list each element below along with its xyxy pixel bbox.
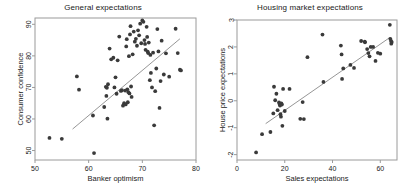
y-tick-label: 70 xyxy=(26,83,33,91)
data-point xyxy=(388,23,392,27)
data-point xyxy=(321,33,325,37)
data-point xyxy=(102,105,106,109)
y-tick-label: 1 xyxy=(228,72,235,76)
data-point xyxy=(48,136,52,140)
data-point xyxy=(155,27,159,31)
data-point xyxy=(131,52,135,56)
data-point xyxy=(378,52,382,56)
data-point xyxy=(154,67,158,71)
data-point xyxy=(108,47,112,51)
data-point xyxy=(260,132,264,136)
x-tick-label: 40 xyxy=(329,165,337,172)
data-point xyxy=(116,58,120,62)
y-axis-title-right: House price expectations xyxy=(218,20,227,160)
data-point xyxy=(127,54,131,58)
data-point xyxy=(349,63,353,67)
data-point xyxy=(339,44,343,48)
data-point xyxy=(157,50,161,54)
scatter-plot-left: 506070805060708090 xyxy=(0,0,206,190)
data-point xyxy=(148,78,152,82)
scatter-points xyxy=(48,19,183,155)
x-axis-title-left: Banker optimism xyxy=(35,174,196,183)
data-point xyxy=(280,103,284,107)
data-point xyxy=(150,86,154,90)
y-tick-label: 2 xyxy=(228,45,235,49)
data-point xyxy=(126,100,130,104)
data-point xyxy=(139,41,143,45)
data-point xyxy=(143,42,147,46)
data-point xyxy=(147,41,151,45)
x-tick-label: 60 xyxy=(85,165,93,172)
data-point xyxy=(106,117,110,121)
data-point xyxy=(352,66,356,70)
data-point xyxy=(162,73,166,77)
data-point xyxy=(275,92,279,96)
chart-panel-general-expectations: General expectations 506070805060708090 … xyxy=(0,0,206,190)
scatter-points xyxy=(254,23,393,154)
data-point xyxy=(273,98,277,102)
data-point xyxy=(179,68,183,72)
data-point xyxy=(129,24,133,28)
x-tick-label: 70 xyxy=(138,165,146,172)
data-point xyxy=(374,59,378,63)
data-point xyxy=(117,35,121,39)
data-point xyxy=(340,77,344,81)
x-tick-label: 80 xyxy=(192,165,200,172)
data-point xyxy=(145,25,149,29)
y-tick-label: -1 xyxy=(228,124,235,130)
data-point xyxy=(138,22,142,26)
data-point xyxy=(132,30,136,34)
data-point xyxy=(149,71,153,75)
data-point xyxy=(271,112,275,116)
data-point xyxy=(164,51,168,55)
y-tick-label: 3 xyxy=(228,18,235,22)
x-tick-label: 50 xyxy=(31,165,39,172)
data-point xyxy=(341,67,345,71)
data-point xyxy=(176,51,180,55)
data-point xyxy=(280,124,284,128)
y-tick-label: 60 xyxy=(26,115,33,123)
data-point xyxy=(302,117,306,121)
data-point xyxy=(142,20,146,24)
data-point xyxy=(158,106,162,110)
data-point xyxy=(91,114,95,118)
y-tick-label: 90 xyxy=(26,20,33,28)
y-tick-label: 50 xyxy=(26,147,33,155)
y-tick-label: -2 xyxy=(228,151,235,157)
data-point xyxy=(368,54,372,58)
data-point xyxy=(174,27,178,31)
data-point xyxy=(322,80,326,84)
figure-container: General expectations 506070805060708090 … xyxy=(0,0,413,190)
data-point xyxy=(390,40,394,44)
data-point xyxy=(136,28,140,32)
data-point xyxy=(130,95,134,99)
data-point xyxy=(279,115,283,119)
data-point xyxy=(124,45,128,49)
data-point xyxy=(104,94,108,98)
data-point xyxy=(363,40,367,44)
data-point xyxy=(340,53,344,57)
y-tick-label: 0 xyxy=(228,99,235,103)
data-point xyxy=(276,108,280,112)
data-point xyxy=(306,55,310,59)
data-point xyxy=(106,82,110,86)
data-point xyxy=(371,45,375,49)
data-point xyxy=(366,51,370,55)
data-point xyxy=(301,100,305,104)
data-point xyxy=(129,85,133,89)
data-point xyxy=(254,151,258,155)
data-point xyxy=(288,87,292,91)
data-point xyxy=(269,130,273,134)
data-point xyxy=(160,39,164,43)
data-point xyxy=(111,56,115,60)
data-point xyxy=(60,137,64,141)
data-point xyxy=(281,87,285,91)
data-point xyxy=(75,74,79,78)
data-point xyxy=(143,38,147,42)
y-axis-title-left: Consumer confidence xyxy=(16,18,25,160)
data-point xyxy=(159,79,163,83)
data-point xyxy=(105,86,109,90)
data-point xyxy=(359,39,363,43)
data-point xyxy=(137,33,141,37)
data-point xyxy=(128,33,132,37)
